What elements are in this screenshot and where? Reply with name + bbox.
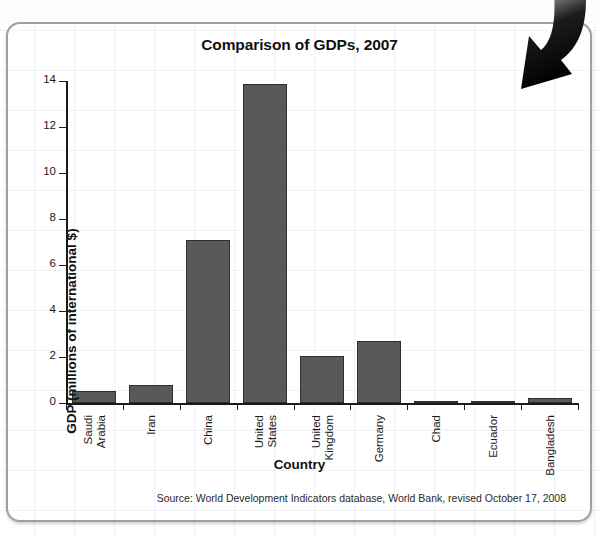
x-axis-line [66,403,578,405]
x-axis-tick [237,403,238,410]
x-axis-tick [578,403,579,410]
bar[interactable] [72,391,116,403]
y-axis-tick [59,127,66,128]
bar[interactable] [300,356,344,403]
x-axis-title: Country [0,457,599,472]
bar[interactable] [186,240,230,403]
bar[interactable] [129,385,173,403]
bar-slot [123,81,180,403]
y-axis-tick [59,81,66,82]
y-axis-tick-label: 6 [32,257,56,269]
x-axis-tick [464,403,465,410]
y-axis-tick-label: 8 [32,211,56,223]
x-axis-tick [180,403,181,410]
bar-slot [464,81,521,403]
bar-slot [407,81,464,403]
x-axis-tick [350,403,351,410]
bar[interactable] [414,401,458,403]
bar[interactable] [243,84,287,403]
bar-slot [237,81,294,403]
y-axis-tick-label: 14 [32,73,56,85]
chart-title: Comparison of GDPs, 2007 [0,36,599,54]
bar-slot [294,81,351,403]
bar[interactable] [471,401,515,403]
source-note: Source: World Development Indicators dat… [0,492,580,504]
bar-slot [350,81,407,403]
plot-area: 02468101214 Saudi ArabiaIranChinaUnited … [66,81,578,403]
y-axis-tick [59,173,66,174]
y-axis-tick-label: 0 [32,395,56,407]
bar-slot [521,81,578,403]
y-axis-tick-label: 2 [32,349,56,361]
x-axis-tick [521,403,522,410]
x-axis-tick [123,403,124,410]
y-axis-tick-label: 4 [32,303,56,315]
y-axis-tick-label: 10 [32,165,56,177]
page-top-strip [0,0,599,24]
bar-slot [180,81,237,403]
bar[interactable] [528,398,572,403]
bar[interactable] [357,341,401,403]
y-axis-title: GDP (millions of international $) [64,201,79,461]
x-axis-tick [294,403,295,410]
x-axis-tick [407,403,408,410]
y-axis-tick-label: 12 [32,119,56,131]
